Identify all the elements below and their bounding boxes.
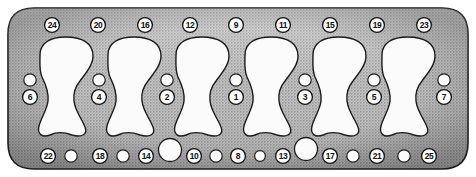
numbered-hole-18: 18 [93,149,108,164]
numbered-hole-24: 24 [45,18,60,33]
numbered-hole-12: 12 [183,18,198,33]
plain-hole-middle-4 [230,74,242,86]
hole-number-label-5: 5 [372,92,377,102]
hole-number-label-24: 24 [48,20,57,30]
hole-number-label-3: 3 [303,92,308,102]
hole-number-label-25: 25 [425,151,434,161]
hole-number-label-6: 6 [28,92,33,102]
numbered-hole-13: 13 [276,149,291,164]
plain-hole-middle-6 [368,74,380,86]
hole-number-label-23: 23 [420,20,429,30]
hole-number-label-16: 16 [141,20,150,30]
numbered-hole-5: 5 [367,90,382,105]
numbered-hole-25: 25 [422,149,437,164]
numbered-hole-14: 14 [139,149,154,164]
hole-number-label-10: 10 [190,151,199,161]
plain-hole-bottom-4 [255,151,266,162]
hole-number-label-18: 18 [96,151,105,161]
numbered-hole-23: 23 [417,18,432,33]
hole-number-label-4: 4 [97,92,102,102]
hole-number-label-8: 8 [236,151,241,161]
hole-number-label-21: 21 [373,151,382,161]
numbered-hole-9: 9 [229,18,244,33]
numbered-hole-10: 10 [187,149,202,164]
plain-hole-bottom-5 [347,150,359,162]
hole-number-label-17: 17 [326,151,335,161]
numbered-hole-1: 1 [229,90,244,105]
hole-number-label-14: 14 [142,151,151,161]
hole-number-label-2: 2 [165,92,170,102]
hole-number-label-20: 20 [94,20,103,30]
numbered-hole-17: 17 [323,149,338,164]
numbered-hole-20: 20 [91,18,106,33]
numbered-hole-19: 19 [370,18,385,33]
plain-hole-bottom-1 [65,150,77,162]
numbered-hole-4: 4 [92,90,107,105]
gasket-svg-canvas: 2420161291115192364213572218141081317212… [0,0,476,177]
numbered-hole-11: 11 [276,18,291,33]
numbered-hole-3: 3 [298,90,313,105]
hole-number-label-9: 9 [234,20,239,30]
numbered-hole-21: 21 [370,149,385,164]
numbered-hole-2: 2 [160,90,175,105]
numbered-hole-16: 16 [138,18,153,33]
hole-number-label-12: 12 [186,20,195,30]
plain-hole-middle-3 [161,74,173,86]
numbered-hole-7: 7 [437,90,452,105]
numbered-hole-6: 6 [23,90,38,105]
numbered-hole-15: 15 [323,18,338,33]
hole-number-label-1: 1 [234,92,239,102]
numbered-hole-22: 22 [41,149,56,164]
hole-number-label-13: 13 [279,151,288,161]
plain-hole-middle-5 [299,74,311,86]
water-passage-hole-1 [159,139,182,162]
hole-number-label-7: 7 [442,92,447,102]
hole-number-label-22: 22 [44,151,53,161]
gasket-diagram: 2420161291115192364213572218141081317212… [0,0,476,177]
plain-hole-bottom-2 [117,150,129,162]
water-passage-hole-2 [295,138,318,161]
hole-number-label-19: 19 [373,20,382,30]
numbered-hole-8: 8 [231,149,246,164]
plain-hole-middle-7 [438,74,450,86]
plain-hole-bottom-6 [398,150,410,162]
plain-hole-bottom-3 [210,150,222,162]
plain-hole-middle-2 [93,74,105,86]
hole-number-label-15: 15 [326,20,335,30]
hole-number-label-11: 11 [279,20,288,30]
plain-hole-middle-1 [24,74,36,86]
